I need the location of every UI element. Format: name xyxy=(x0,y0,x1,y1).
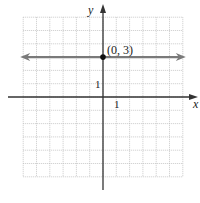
y-tick-label: 1 xyxy=(95,78,101,90)
point-label: (0, 3) xyxy=(107,43,133,57)
y-axis-arrow-icon xyxy=(100,4,106,13)
points xyxy=(100,54,106,60)
coordinate-plane: y x 1 1 (0, 3) xyxy=(0,0,200,203)
y-axis-label: y xyxy=(87,3,94,17)
point-0-3 xyxy=(100,54,106,60)
x-axis-label: x xyxy=(192,97,199,111)
x-tick-label: 1 xyxy=(114,98,120,110)
